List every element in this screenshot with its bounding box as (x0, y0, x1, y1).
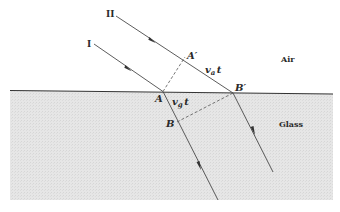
wavefront-A-Aprime (163, 57, 185, 92)
label-ray-I: I (87, 39, 91, 49)
ray-II-incident (116, 16, 233, 93)
label-medium-glass: Glass (279, 119, 304, 129)
label-point-A-prime: A′ (186, 50, 198, 61)
label-ray-II: II (106, 9, 114, 19)
ray-I-incident (94, 44, 163, 92)
label-point-B-prime: B′ (234, 82, 246, 93)
ray-I-arrow-icon (124, 65, 131, 71)
refraction-diagram: II I A′ A B′ B vat vgt Air Glass (0, 0, 340, 212)
label-point-A: A (154, 93, 163, 104)
label-point-B: B (165, 118, 174, 129)
ray-II-arrow-icon (148, 37, 155, 43)
label-medium-air: Air (280, 54, 295, 64)
label-distance-air: vat (205, 64, 222, 77)
